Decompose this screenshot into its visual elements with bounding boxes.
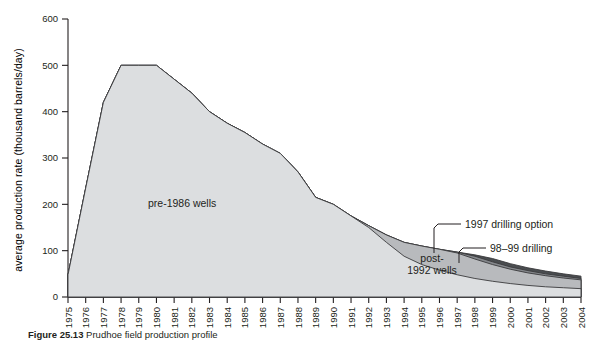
x-tick-label: 1995 <box>416 307 427 328</box>
x-tick-label: 1987 <box>275 307 286 328</box>
y-tick-label: 600 <box>42 13 58 24</box>
x-tick-label: 1982 <box>186 307 197 328</box>
x-tick-label: 1976 <box>80 307 91 328</box>
x-tick-label: 1981 <box>169 307 180 328</box>
x-tick-label: 1988 <box>293 307 304 328</box>
label-post-1992-wells-line1: post- <box>420 252 444 264</box>
x-tick-label: 1980 <box>151 307 162 328</box>
x-tick-label: 1986 <box>257 307 268 328</box>
x-tick-label: 2002 <box>540 307 551 328</box>
x-tick-label: 1994 <box>399 307 410 328</box>
production-profile-chart: average production rate (thousand barrel… <box>0 0 603 344</box>
y-tick-label: 100 <box>42 245 58 256</box>
y-tick-label: 500 <box>42 60 58 71</box>
y-tick-label: 300 <box>42 152 58 163</box>
label-98-99-drilling: 98–99 drilling <box>490 242 553 254</box>
x-tick-label: 1989 <box>310 307 321 328</box>
stacked-area-bands <box>68 65 581 297</box>
x-tick-label: 2000 <box>505 307 516 328</box>
caption-text: Prudhoe field production profile <box>86 329 218 340</box>
x-axis-ticks: 1975197619771978197919801981198219831984… <box>63 297 587 328</box>
x-tick-label: 1991 <box>346 307 357 328</box>
x-tick-label: 1992 <box>363 307 374 328</box>
x-tick-label: 1998 <box>469 307 480 328</box>
y-tick-label: 200 <box>42 199 58 210</box>
x-tick-label: 1975 <box>63 307 74 328</box>
label-pre-1986-wells: pre-1986 wells <box>148 197 216 209</box>
x-tick-label: 1984 <box>222 307 233 328</box>
x-tick-label: 1997 <box>452 307 463 328</box>
y-axis-ticks: 0100200300400500600 <box>42 13 68 302</box>
label-post-1992-wells-line2: 1992 wells <box>407 264 457 276</box>
label-1997-drilling-option: 1997 drilling option <box>465 218 553 230</box>
y-tick-label: 400 <box>42 106 58 117</box>
x-tick-label: 2004 <box>576 307 587 328</box>
caption-number: Figure 25.13 <box>28 329 83 340</box>
x-tick-label: 1990 <box>328 307 339 328</box>
figure-container: average production rate (thousand barrel… <box>0 0 603 344</box>
x-tick-label: 2003 <box>558 307 569 328</box>
x-tick-label: 1993 <box>381 307 392 328</box>
x-tick-label: 1996 <box>434 307 445 328</box>
y-tick-label: 0 <box>53 291 58 302</box>
y-axis-title: average production rate (thousand barrel… <box>12 48 24 271</box>
x-tick-label: 1978 <box>116 307 127 328</box>
x-tick-label: 1999 <box>487 307 498 328</box>
x-tick-label: 1983 <box>204 307 215 328</box>
x-tick-label: 1979 <box>133 307 144 328</box>
figure-caption: Figure 25.13 Prudhoe field production pr… <box>28 329 588 341</box>
x-tick-label: 1977 <box>98 307 109 328</box>
x-tick-label: 2001 <box>523 307 534 328</box>
x-tick-label: 1985 <box>239 307 250 328</box>
